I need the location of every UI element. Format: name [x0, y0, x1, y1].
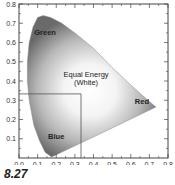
svg-text:0.8: 0.8 — [6, 1, 16, 8]
svg-text:0.7: 0.7 — [6, 20, 16, 27]
svg-text:0.1: 0.1 — [33, 161, 43, 165]
svg-text:Red: Red — [135, 97, 150, 106]
svg-text:0.6: 0.6 — [126, 161, 136, 165]
svg-text:0.0: 0.0 — [14, 161, 24, 165]
svg-text:0.3: 0.3 — [70, 161, 80, 165]
svg-text:Green: Green — [34, 28, 56, 37]
svg-text:0.5: 0.5 — [107, 161, 117, 165]
chromaticity-chart: 0.00.10.20.30.40.50.60.70.80.10.20.30.40… — [0, 0, 175, 165]
svg-text:0.3: 0.3 — [6, 97, 16, 104]
svg-text:0.7: 0.7 — [145, 161, 155, 165]
svg-text:0.8: 0.8 — [163, 161, 173, 165]
svg-text:0.2: 0.2 — [6, 116, 16, 123]
svg-text:0.5: 0.5 — [6, 58, 16, 65]
svg-text:Blue: Blue — [48, 132, 64, 141]
svg-text:(White): (White) — [74, 78, 99, 87]
figure-label: 8.27 — [4, 167, 27, 181]
svg-text:0.6: 0.6 — [6, 39, 16, 46]
svg-text:0.4: 0.4 — [89, 161, 99, 165]
svg-text:0.4: 0.4 — [6, 78, 16, 85]
svg-text:0.1: 0.1 — [6, 135, 16, 142]
svg-text:0.2: 0.2 — [51, 161, 61, 165]
